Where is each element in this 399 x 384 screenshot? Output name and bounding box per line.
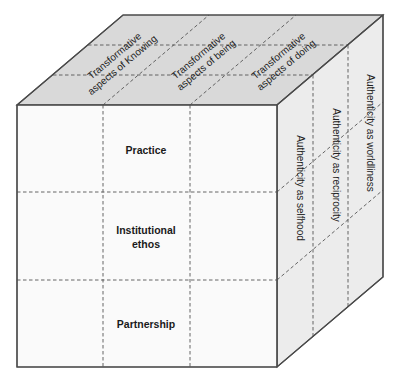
layer-label-reciprocity: Authenticity as reciprocity — [331, 108, 342, 221]
row-label-partnership: Partnership — [117, 318, 175, 330]
row-label-institutional-ethos-line1: Institutional — [116, 224, 176, 236]
layer-label-selfhood: Authenticity as selfhood — [295, 135, 306, 241]
row-label-practice: Practice — [126, 144, 167, 156]
layer-label-worldliness: Authenticity as worldliness — [365, 74, 376, 191]
row-label-institutional-ethos-line2: ethos — [132, 238, 160, 250]
cube-diagram: Practice Institutional ethos Partnership… — [0, 0, 399, 384]
